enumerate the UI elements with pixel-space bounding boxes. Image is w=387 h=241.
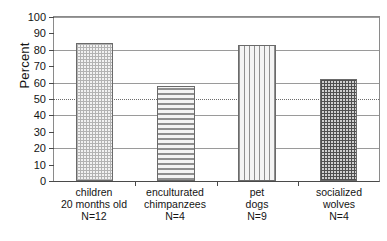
y-tick-label-10: 10	[34, 159, 46, 171]
x-category-line-1: pet	[216, 186, 298, 198]
x-category-label-enculturated-chimpanzees: enculturated chimpanzees N=4	[134, 186, 216, 222]
bar-socialized-wolves	[320, 79, 357, 181]
y-tick-label-60: 60	[34, 77, 46, 89]
y-tick-mark	[49, 66, 54, 67]
x-category-label-children: children 20 months old N=12	[53, 186, 135, 222]
x-category-line-1: children	[53, 186, 135, 198]
x-category-line-2: chimpanzees	[134, 198, 216, 210]
x-category-line-2: 20 months old	[53, 198, 135, 210]
y-tick-label-20: 20	[34, 142, 46, 154]
y-tick-mark	[49, 17, 54, 18]
bar-children	[76, 43, 113, 181]
x-category-line-2: dogs	[216, 198, 298, 210]
y-tick-mark	[49, 115, 54, 116]
x-category-line-1: enculturated	[134, 186, 216, 198]
gridline-100	[54, 17, 379, 18]
x-category-line-3: N=4	[134, 210, 216, 222]
y-tick-label-90: 90	[34, 27, 46, 39]
y-tick-mark	[49, 50, 54, 51]
y-tick-label-50: 50	[34, 93, 46, 105]
y-tick-mark	[49, 148, 54, 149]
x-category-line-3: N=12	[53, 210, 135, 222]
y-tick-label-80: 80	[34, 44, 46, 56]
y-tick-mark	[49, 33, 54, 34]
y-tick-mark	[49, 181, 54, 182]
bar-chart-figure: Percent 0102030405060708090100 children …	[0, 0, 387, 241]
x-category-line-1: socialized	[298, 186, 380, 198]
x-category-line-2: wolves	[298, 198, 380, 210]
bar-pet-dogs	[238, 45, 275, 181]
x-category-line-3: N=4	[298, 210, 380, 222]
x-category-line-3: N=9	[216, 210, 298, 222]
y-tick-label-40: 40	[34, 109, 46, 121]
y-tick-label-100: 100	[28, 11, 46, 23]
bar-enculturated-chimpanzees	[157, 86, 194, 181]
plot-area: 0102030405060708090100	[53, 16, 380, 182]
y-tick-mark	[49, 132, 54, 133]
y-axis-title: Percent	[17, 6, 32, 126]
y-tick-label-0: 0	[40, 175, 46, 187]
y-tick-label-30: 30	[34, 126, 46, 138]
x-category-label-socialized-wolves: socialized wolves N=4	[298, 186, 380, 222]
y-tick-mark	[49, 165, 54, 166]
y-tick-label-70: 70	[34, 60, 46, 72]
y-tick-mark	[49, 83, 54, 84]
x-category-label-pet-dogs: pet dogs N=9	[216, 186, 298, 222]
